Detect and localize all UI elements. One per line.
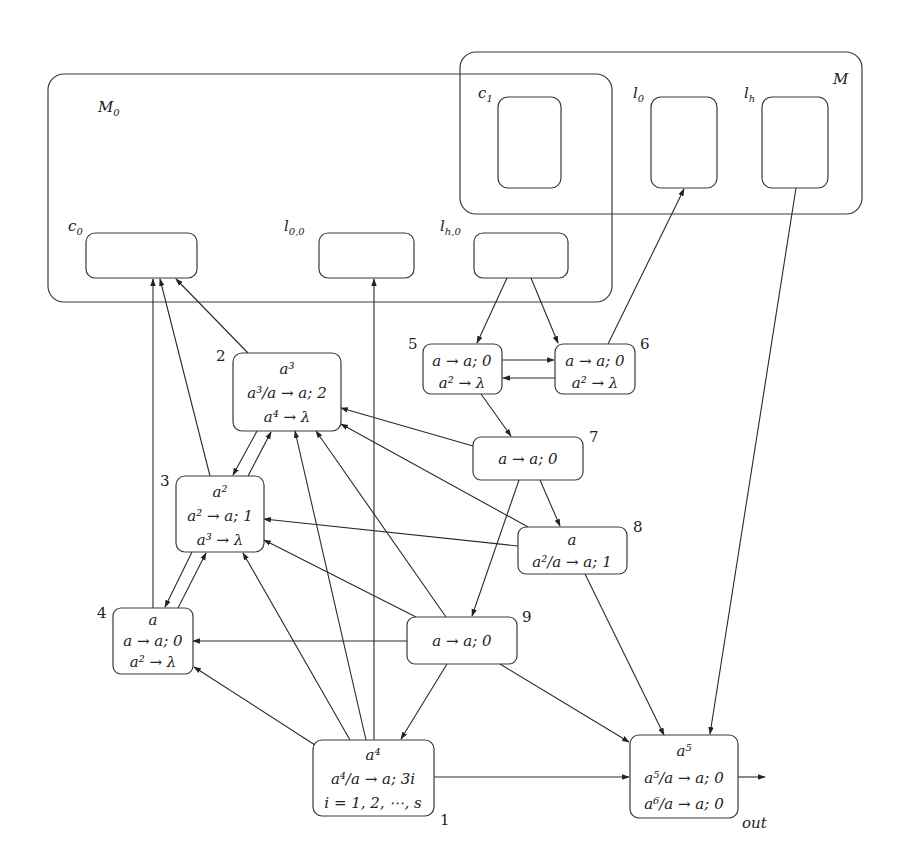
svg-text:a → a; 0: a → a; 0 (498, 450, 558, 468)
svg-text:i = 1, 2, ⋯, s: i = 1, 2, ⋯, s (324, 794, 422, 812)
svg-text:a⁵/a → a; 0: a⁵/a → a; 0 (644, 769, 724, 787)
register-lh-label: lh (744, 84, 755, 104)
neuron-7: 7 a → a; 0 (473, 428, 599, 480)
svg-text:a: a (568, 531, 577, 549)
svg-text:a⁴/a → a; 3i: a⁴/a → a; 3i (331, 770, 415, 788)
module-m0-label: M0 (97, 98, 120, 118)
neuron-9: 9 a → a; 0 (407, 608, 532, 664)
svg-text:a² → λ: a² → λ (572, 374, 619, 392)
svg-text:a → a; 0: a → a; 0 (432, 352, 492, 370)
neuron-4: 4 a a → a; 0 a² → λ (97, 604, 193, 674)
neuron-1: 1 a⁴ a⁴/a → a; 3i i = 1, 2, ⋯, s (313, 740, 450, 829)
svg-text:a⁴ → λ: a⁴ → λ (264, 408, 311, 426)
register-c0 (86, 233, 197, 278)
svg-text:a → a; 0: a → a; 0 (565, 352, 625, 370)
register-l0 (651, 97, 717, 188)
svg-text:4: 4 (97, 604, 107, 622)
svg-text:a⁵: a⁵ (677, 742, 692, 760)
svg-text:5: 5 (408, 335, 418, 353)
svg-text:3: 3 (160, 472, 170, 490)
module-m-container (460, 52, 862, 214)
svg-text:9: 9 (522, 608, 532, 626)
register-c1 (498, 97, 561, 188)
svg-text:a⁴: a⁴ (366, 746, 381, 764)
svg-text:a³ → λ: a³ → λ (197, 531, 244, 549)
neuron-8: 8 a a²/a → a; 1 (518, 518, 643, 574)
synapse-edges (153, 188, 796, 777)
svg-text:a²/a → a; 1: a²/a → a; 1 (532, 553, 611, 571)
register-lh0 (474, 233, 568, 278)
module-m-label: M (832, 70, 849, 88)
register-c0-label: c0 (68, 217, 83, 237)
svg-text:a³: a³ (280, 360, 295, 378)
neuron-6: 6 a → a; 0 a² → λ (555, 335, 650, 394)
neuron-3: 3 a² a² → a; 1 a³ → λ (160, 472, 264, 552)
svg-text:8: 8 (633, 518, 643, 536)
neuron-2: 2 a³ a³/a → a; 2 a⁴ → λ (216, 347, 341, 431)
register-l0-label: l0 (633, 84, 645, 104)
svg-text:a → a; 0: a → a; 0 (432, 632, 492, 650)
svg-text:2: 2 (216, 347, 226, 365)
register-lh (762, 97, 828, 188)
svg-text:a² → λ: a² → λ (130, 653, 177, 671)
svg-text:a³/a → a; 2: a³/a → a; 2 (247, 384, 326, 402)
svg-text:out: out (742, 814, 768, 832)
neuron-out: out a⁵ a⁵/a → a; 0 a⁶/a → a; 0 (630, 735, 768, 832)
snp-system-diagram: M0 M c1 l0 lh c0 l0,0 lh,0 (0, 0, 913, 868)
neuron-5: 5 a → a; 0 a² → λ (408, 335, 502, 394)
svg-text:a² → a; 1: a² → a; 1 (187, 507, 252, 525)
register-lh0-label: lh,0 (440, 217, 461, 237)
svg-text:a²: a² (213, 483, 228, 501)
svg-text:a: a (149, 611, 158, 629)
register-l00 (319, 233, 414, 278)
svg-text:6: 6 (640, 335, 650, 353)
svg-text:7: 7 (589, 428, 599, 446)
svg-text:1: 1 (440, 811, 450, 829)
svg-text:a⁶/a → a; 0: a⁶/a → a; 0 (644, 795, 724, 813)
svg-text:a² → λ: a² → λ (439, 374, 486, 392)
register-l00-label: l0,0 (284, 217, 305, 237)
svg-text:a → a; 0: a → a; 0 (123, 632, 183, 650)
register-c1-label: c1 (478, 84, 493, 104)
